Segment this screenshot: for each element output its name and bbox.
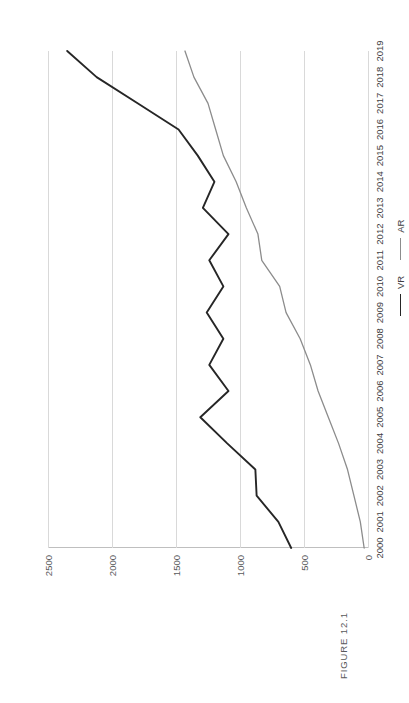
category-axis-tick-label: 2014 <box>374 171 385 192</box>
category-axis-tick-label: 2002 <box>374 485 385 506</box>
value-axis-tick-label: 0 <box>363 555 374 560</box>
legend-item-vr[interactable]: VR <box>395 276 406 316</box>
category-axis-tick-label: 2010 <box>374 276 385 297</box>
category-axis-tick-label: 2005 <box>374 407 385 428</box>
category-axis-tick-label: 2004 <box>374 433 385 454</box>
value-axis-tick-label: 500 <box>299 555 310 571</box>
legend-label-ar: AR <box>395 220 406 233</box>
legend-item-ar[interactable]: AR <box>395 220 406 260</box>
figure-label: FIGURE 12.1 <box>338 612 349 679</box>
category-axis-tick-label: 2009 <box>374 302 385 323</box>
category-axis-tick-label: 2008 <box>374 328 385 349</box>
category-axis-tick-label: 2000 <box>374 537 385 558</box>
legend-label-vr: VR <box>395 276 406 289</box>
category-axis-tick-label: 2015 <box>374 145 385 166</box>
category-axis-tick-label: 2006 <box>374 380 385 401</box>
category-axis-tick-label: 2003 <box>374 459 385 480</box>
legend-swatch-vr <box>400 294 401 316</box>
category-axis-tick-label: 2019 <box>374 40 385 61</box>
legend-swatch-ar <box>400 238 401 260</box>
chart-plot-area: 05001000150020002500 2000200120022003200… <box>48 51 368 548</box>
chart-legend: VRAR <box>395 220 406 316</box>
value-axis-tick-label: 2500 <box>43 555 54 576</box>
category-axis-tick-label: 2017 <box>374 93 385 114</box>
value-axis-tick-label: 2000 <box>107 555 118 576</box>
value-axis-tick-label: 1500 <box>171 555 182 576</box>
series-line-ar <box>185 51 364 548</box>
rotated-chart-canvas: FIGURE 12.1 05001000150020002500 2000200… <box>0 0 409 703</box>
category-axis-tick-label: 2011 <box>374 250 385 270</box>
category-axis-tick-label: 2001 <box>374 511 385 532</box>
category-axis-tick-label: 2007 <box>374 354 385 375</box>
category-axis-tick-label: 2013 <box>374 197 385 218</box>
category-axis-tick-label: 2012 <box>374 224 385 245</box>
series-lines <box>48 51 368 548</box>
value-axis-tick-label: 1000 <box>235 555 246 576</box>
category-axis-tick-label: 2016 <box>374 119 385 140</box>
category-axis-tick-label: 2018 <box>374 67 385 88</box>
gridline <box>368 51 369 548</box>
series-line-vr <box>67 51 291 548</box>
